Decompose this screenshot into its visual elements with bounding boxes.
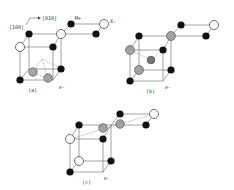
cation [25,30,32,37]
cation [67,20,74,27]
hatched-atom [167,32,176,41]
electron-label: e- [165,84,171,90]
hatched-atom [116,120,125,129]
panel-c-caption: (c) [82,179,91,185]
hatched-atom [135,66,144,75]
cation [75,121,82,128]
cation [177,21,184,28]
cation [66,168,73,175]
electron-label: e- [104,175,110,181]
cation [107,157,114,164]
cation [159,46,166,53]
hatched-atom [29,68,37,76]
cation-label: M+ [75,15,81,21]
hatched-atom [126,46,135,55]
anion [150,110,159,119]
electron-label: e- [59,84,65,90]
cation [49,43,56,50]
cation [57,65,64,72]
cation [92,30,99,37]
cation [167,66,174,73]
cation [116,110,123,117]
axis-label-100: [100] [9,24,24,30]
anion [75,157,84,166]
anion-label: X- [110,18,116,24]
crystal-defect-figure: [010] [100] M+ [0,0,234,190]
panel-a-caption: (a) [28,87,37,93]
anion [66,135,75,144]
panel-c: e- (c) [66,110,159,186]
cation [135,32,142,39]
panel-a: [010] [100] M+ [9,15,116,93]
cation [99,135,106,142]
interstitial-atom [147,56,155,64]
cation [142,121,149,128]
anion [57,30,66,39]
hatched-atom [44,74,52,82]
panel-b-caption: (b) [146,88,155,94]
hatched-atom [99,124,108,133]
cation [202,32,209,39]
anion [210,21,219,30]
anion [16,43,25,52]
anion [100,20,109,29]
panel-b: e- (b) [126,21,219,95]
axis-indicator: [010] [100] [9,15,57,30]
cation [126,77,133,84]
axis-label-010: [010] [42,15,57,21]
cation [16,76,23,83]
